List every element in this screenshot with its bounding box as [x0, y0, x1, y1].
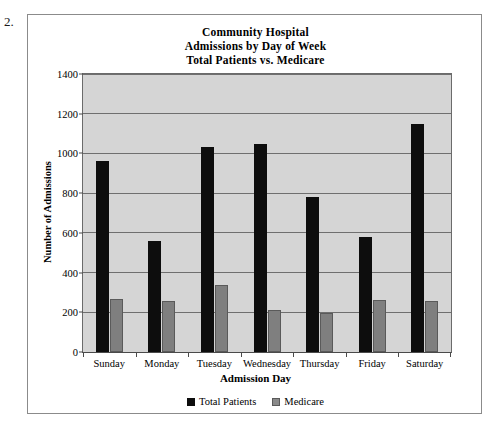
gridline: [83, 193, 451, 194]
x-tick-mark: [136, 352, 137, 357]
bar-monday-total-patients: [148, 241, 161, 352]
x-tick-label-monday: Monday: [144, 358, 179, 369]
y-tick-mark: [79, 74, 83, 75]
x-tick-label-friday: Friday: [358, 358, 385, 369]
chart-legend: Total PatientsMedicare: [28, 396, 483, 407]
y-tick-mark: [79, 272, 83, 273]
x-tick-mark: [450, 352, 451, 357]
y-tick-label: 1000: [57, 148, 78, 159]
y-tick-label: 0: [73, 347, 78, 358]
legend-label: Medicare: [284, 396, 324, 407]
gridline: [83, 272, 451, 273]
y-tick-label: 400: [62, 267, 78, 278]
legend-label: Total Patients: [199, 396, 256, 407]
legend-item-total-patients: Total Patients: [187, 396, 256, 407]
y-tick-mark: [79, 312, 83, 313]
x-tick-mark: [241, 352, 242, 357]
y-axis-title: Number of Admissions: [42, 73, 56, 351]
chart-title: Community Hospital Admissions by Day of …: [28, 25, 483, 67]
y-tick-label: 1200: [57, 108, 78, 119]
bar-saturday-total-patients: [411, 124, 424, 352]
x-tick-label-saturday: Saturday: [406, 358, 443, 369]
bar-wednesday-total-patients: [254, 144, 267, 353]
x-tick-mark: [293, 352, 294, 357]
bar-tuesday-medicare: [215, 285, 228, 353]
gridline: [83, 153, 451, 154]
legend-item-medicare: Medicare: [272, 396, 324, 407]
legend-swatch-icon: [187, 398, 195, 406]
x-axis-title: Admission Day: [28, 372, 483, 384]
x-tick-label-tuesday: Tuesday: [197, 358, 232, 369]
bar-monday-medicare: [162, 301, 175, 352]
y-tick-mark: [79, 193, 83, 194]
figure-page: 2. Community Hospital Admissions by Day …: [0, 0, 490, 426]
x-tick-mark: [346, 352, 347, 357]
bar-saturday-medicare: [425, 301, 438, 352]
y-tick-label: 200: [62, 307, 78, 318]
chart-title-line-1: Community Hospital: [28, 25, 483, 39]
bar-thursday-medicare: [320, 313, 333, 352]
y-tick-label: 1400: [57, 69, 78, 80]
x-tick-label-wednesday: Wednesday: [243, 358, 291, 369]
y-tick-label: 800: [62, 188, 78, 199]
x-tick-mark: [83, 352, 84, 357]
y-tick-mark: [79, 153, 83, 154]
bar-friday-total-patients: [359, 237, 372, 352]
x-tick-label-thursday: Thursday: [300, 358, 340, 369]
bar-friday-medicare: [373, 300, 386, 352]
plot-area: 0200400600800100012001400SundayMondayTue…: [82, 73, 452, 353]
y-tick-label: 600: [62, 227, 78, 238]
bar-sunday-total-patients: [96, 161, 109, 352]
gridline: [83, 74, 451, 75]
question-number: 2.: [4, 14, 14, 30]
y-tick-mark: [79, 113, 83, 114]
gridline: [83, 113, 451, 114]
bar-sunday-medicare: [110, 299, 123, 352]
bar-tuesday-total-patients: [201, 147, 214, 352]
chart-figure-frame: Community Hospital Admissions by Day of …: [27, 14, 482, 414]
bar-wednesday-medicare: [268, 310, 281, 352]
gridline: [83, 232, 451, 233]
chart-title-line-3: Total Patients vs. Medicare: [28, 53, 483, 67]
bar-thursday-total-patients: [306, 197, 319, 352]
y-tick-mark: [79, 232, 83, 233]
x-tick-mark: [188, 352, 189, 357]
chart-title-line-2: Admissions by Day of Week: [28, 39, 483, 53]
legend-swatch-icon: [272, 398, 280, 406]
x-tick-mark: [398, 352, 399, 357]
x-tick-label-sunday: Sunday: [94, 358, 126, 369]
